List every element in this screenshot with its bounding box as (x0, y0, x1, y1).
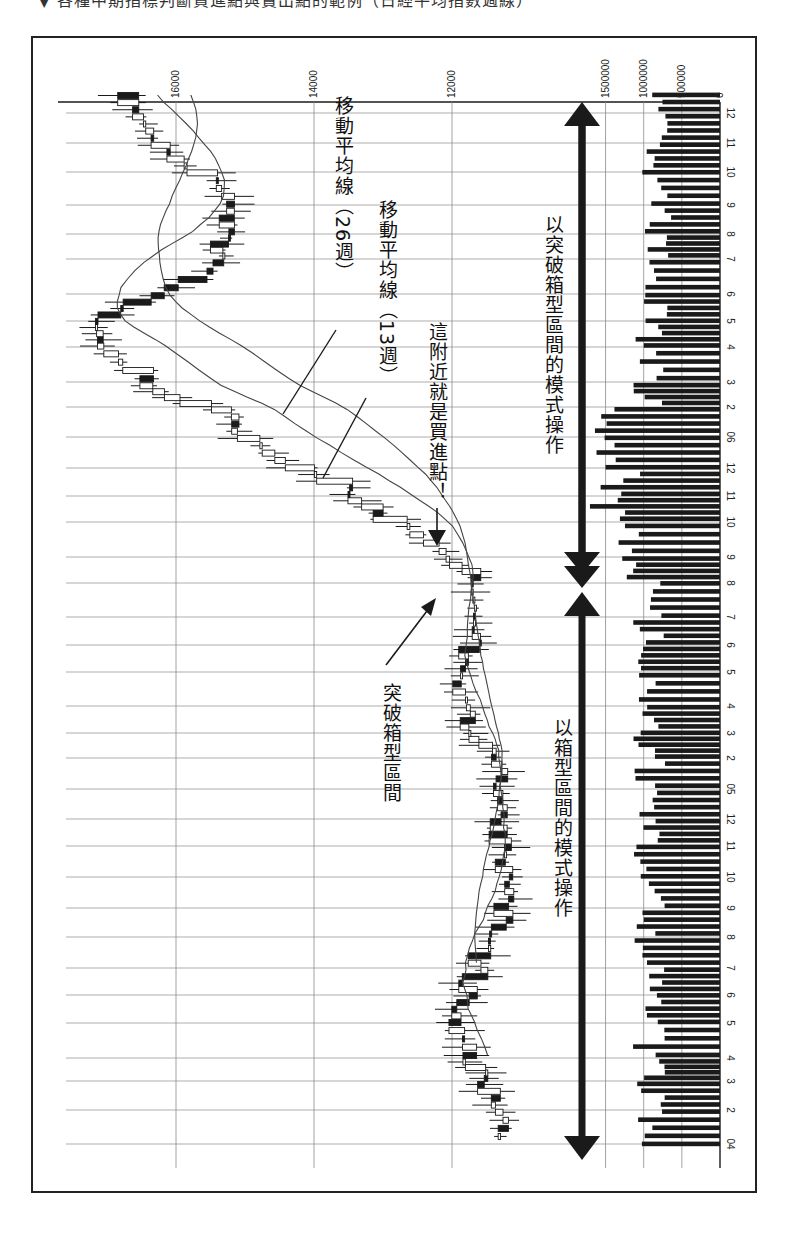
volume-tick-label: 1500000 (600, 59, 611, 98)
month-tick-label: 9 (725, 900, 735, 916)
candlesticks (79, 93, 532, 1140)
volume-tick-label: 500000 (676, 65, 687, 98)
month-tick-label: 4 (725, 698, 735, 714)
month-tick-label: 8 (725, 929, 735, 945)
month-tick-label: 9 (725, 197, 735, 213)
price-tick-label: 16000 (170, 70, 181, 98)
month-tick-label: 5 (725, 313, 735, 329)
month-tick-label: 3 (725, 374, 735, 390)
month-tick-label: 3 (725, 1073, 735, 1089)
month-tick-label: 05 (725, 781, 735, 797)
month-tick-label: 3 (725, 725, 735, 741)
month-tick-label: 10 (725, 514, 735, 530)
month-tick-label: 12 (725, 460, 735, 476)
ma26-label: 移動平均線（26週） (330, 96, 357, 282)
price-tick-label: 12000 (446, 70, 457, 98)
month-tick-label: 2 (725, 399, 735, 415)
volume-tick-label: 1000000 (638, 59, 649, 98)
month-tick-label: 11 (725, 135, 735, 151)
moving-average-lines (117, 95, 505, 1055)
month-tick-label: 4 (725, 339, 735, 355)
month-tick-label: 6 (725, 987, 735, 1003)
month-tick-label: 2 (725, 1102, 735, 1118)
month-tick-label: 2 (725, 750, 735, 766)
month-tick-label: 10 (725, 164, 735, 180)
breakout-label: 突破箱型區間 (378, 683, 405, 803)
volume-bars (590, 93, 720, 1147)
month-tick-label: 8 (725, 575, 735, 591)
month-tick-label: 06 (725, 429, 735, 445)
month-tick-label: 12 (725, 105, 735, 121)
month-tick-label: 04 (725, 1136, 735, 1152)
price-tick-label: 14000 (308, 70, 319, 98)
month-tick-label: 5 (725, 1015, 735, 1031)
volume-tick-label: 0 (714, 92, 725, 98)
month-tick-label: 4 (725, 1050, 735, 1066)
box-mode-label: 以箱型區間的模式操作 (549, 718, 576, 918)
month-tick-label: 10 (725, 869, 735, 885)
month-tick-label: 9 (725, 549, 735, 565)
month-tick-label: 6 (725, 286, 735, 302)
breakout-mode-label: 以突破箱型區間的模式操作 (540, 215, 567, 455)
month-tick-label: 7 (725, 960, 735, 976)
month-tick-label: 6 (725, 637, 735, 653)
buy-point-label: 這附近就是買進點！ (424, 322, 451, 502)
month-tick-label: 11 (725, 488, 735, 504)
month-tick-label: 7 (725, 609, 735, 625)
month-tick-label: 12 (725, 811, 735, 827)
month-tick-label: 7 (725, 251, 735, 267)
month-tick-label: 5 (725, 664, 735, 680)
candlestick-chart (0, 0, 794, 1234)
ma13-label: 移動平均線（13週） (374, 200, 401, 386)
month-tick-label: 8 (725, 226, 735, 242)
month-tick-label: 11 (725, 838, 735, 854)
